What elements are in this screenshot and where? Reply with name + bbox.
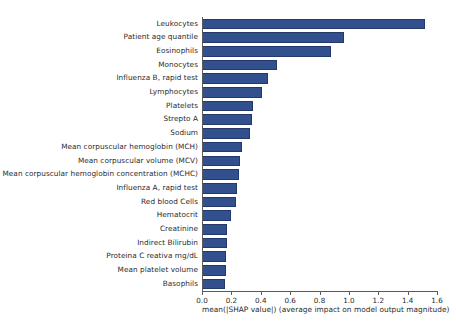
bar-row xyxy=(202,279,225,290)
bar xyxy=(202,87,262,98)
bar xyxy=(202,169,239,180)
x-tick-text: 0.0 xyxy=(196,296,207,305)
bar xyxy=(202,238,227,249)
x-axis-label: mean(|SHAP value|) (average impact on mo… xyxy=(202,305,438,314)
x-tick-text: 1.4 xyxy=(402,296,413,305)
y-tick-label: Patient age quantile xyxy=(124,32,198,43)
y-axis-tick-labels: LeukocytesPatient age quantileEosinophil… xyxy=(0,17,198,291)
y-tick-label: Proteina C reativa mg/dL xyxy=(106,251,198,262)
x-tick-mark xyxy=(320,292,321,295)
bar xyxy=(202,142,242,153)
bar-row xyxy=(202,210,231,221)
y-tick-label: Influenza B, rapid test xyxy=(116,73,198,84)
bar-row xyxy=(202,60,277,71)
y-tick-label: Lymphocytes xyxy=(149,87,198,98)
bar-row xyxy=(202,183,237,194)
bar xyxy=(202,101,253,112)
y-tick-label: Creatinine xyxy=(160,224,198,235)
bar xyxy=(202,60,277,71)
bar xyxy=(202,183,237,194)
bar xyxy=(202,265,226,276)
bar-row xyxy=(202,128,250,139)
x-tick-text: 1.0 xyxy=(343,296,354,305)
bar-row xyxy=(202,32,344,43)
x-tick-text: 0.6 xyxy=(284,296,295,305)
y-tick-label: Leukocytes xyxy=(157,19,198,30)
bar xyxy=(202,19,425,30)
y-tick-label: Basophils xyxy=(163,279,198,290)
bar-row xyxy=(202,265,226,276)
bar xyxy=(202,279,225,290)
x-tick-mark xyxy=(378,292,379,295)
y-tick-label: Mean platelet volume xyxy=(118,265,198,276)
bar-row xyxy=(202,224,227,235)
y-tick-label: Mean corpuscular hemoglobin (MCH) xyxy=(61,142,198,153)
x-tick-mark xyxy=(261,292,262,295)
bar xyxy=(202,224,227,235)
bar-row xyxy=(202,238,227,249)
bar-row xyxy=(202,197,236,208)
bar-row xyxy=(202,46,331,57)
x-tick-mark xyxy=(231,292,232,295)
bar xyxy=(202,251,226,262)
bar-row xyxy=(202,19,425,30)
bar xyxy=(202,210,231,221)
x-tick-mark xyxy=(290,292,291,295)
y-tick-label: Influenza A, rapid test xyxy=(116,183,198,194)
x-tick-text: 1.2 xyxy=(373,296,384,305)
shap-feature-importance-chart: LeukocytesPatient age quantileEosinophil… xyxy=(0,0,456,327)
y-tick-label: Strepto A xyxy=(163,114,198,125)
bar-row xyxy=(202,142,242,153)
bar xyxy=(202,46,331,57)
bar-row xyxy=(202,169,239,180)
bar-row xyxy=(202,73,268,84)
bar-row xyxy=(202,114,252,125)
y-tick-label: Indirect Bilirubin xyxy=(137,238,198,249)
x-tick-mark xyxy=(202,292,203,295)
y-tick-label: Hematocrit xyxy=(157,210,198,221)
y-tick-label: Mean corpuscular volume (MCV) xyxy=(78,156,198,167)
bar xyxy=(202,114,252,125)
x-tick-text: 0.4 xyxy=(255,296,266,305)
x-tick-mark xyxy=(408,292,409,295)
x-tick-text: 0.2 xyxy=(226,296,237,305)
x-tick-mark xyxy=(349,292,350,295)
bar xyxy=(202,32,344,43)
bar xyxy=(202,156,240,167)
y-tick-label: Monocytes xyxy=(158,60,198,71)
plot-area xyxy=(202,17,437,291)
bar-row xyxy=(202,87,262,98)
y-tick-label: Platelets xyxy=(166,101,198,112)
bar xyxy=(202,128,250,139)
bar-row xyxy=(202,156,240,167)
bar xyxy=(202,197,236,208)
y-axis-line xyxy=(202,17,203,292)
x-tick-text: 1.6 xyxy=(431,296,442,305)
y-tick-label: Mean corpuscular hemoglobin concentratio… xyxy=(2,169,198,180)
bar xyxy=(202,73,268,84)
y-tick-label: Red blood Cells xyxy=(141,197,198,208)
bar-row xyxy=(202,251,226,262)
bar-row xyxy=(202,101,253,112)
x-tick-mark xyxy=(437,292,438,295)
y-tick-label: Eosinophils xyxy=(156,46,198,57)
y-tick-label: Sodium xyxy=(170,128,198,139)
x-tick-text: 0.8 xyxy=(314,296,325,305)
